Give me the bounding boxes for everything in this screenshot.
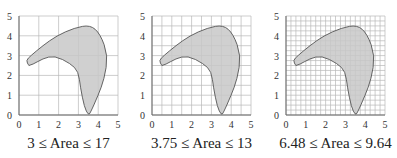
y-tick-label: 3 <box>7 51 12 62</box>
x-tick-label: 3 <box>76 119 81 130</box>
x-tick-label: 0 <box>284 119 289 130</box>
x-tick-label: 4 <box>229 119 234 130</box>
x-tick-label: 2 <box>189 119 194 130</box>
y-tick-label: 5 <box>7 11 12 22</box>
x-tick-label: 1 <box>169 119 174 130</box>
area-bounds-caption: 6.48 ≤ Area ≤ 9.64 <box>279 135 392 151</box>
y-tick-label: 4 <box>140 31 145 42</box>
plot-panel-2: 0123450123453.75 ≤ Area ≤ 13 <box>140 11 254 151</box>
y-tick-label: 1 <box>274 90 279 101</box>
area-bounds-caption: 3.75 ≤ Area ≤ 13 <box>151 135 252 151</box>
x-tick-label: 5 <box>383 119 388 130</box>
x-tick-label: 1 <box>36 119 41 130</box>
plot-panel-1: 0123450123453 ≤ Area ≤ 17 <box>7 11 121 151</box>
area-bounds-caption: 3 ≤ Area ≤ 17 <box>27 135 110 151</box>
x-tick-label: 5 <box>249 119 254 130</box>
y-tick-label: 0 <box>7 110 12 121</box>
x-tick-label: 1 <box>303 119 308 130</box>
x-tick-label: 2 <box>56 119 61 130</box>
y-tick-label: 3 <box>140 51 145 62</box>
x-tick-label: 3 <box>343 119 348 130</box>
y-tick-label: 5 <box>274 11 279 22</box>
y-tick-label: 4 <box>274 31 279 42</box>
x-tick-label: 4 <box>96 119 101 130</box>
x-tick-label: 3 <box>209 119 214 130</box>
y-tick-label: 2 <box>274 70 279 81</box>
x-tick-label: 5 <box>116 119 121 130</box>
area-estimation-figure: 0123450123453 ≤ Area ≤ 170123450123453.7… <box>0 0 397 158</box>
x-tick-label: 4 <box>363 119 368 130</box>
y-tick-label: 0 <box>274 110 279 121</box>
y-tick-label: 2 <box>7 70 12 81</box>
y-tick-label: 4 <box>7 31 12 42</box>
y-tick-label: 1 <box>7 90 12 101</box>
y-tick-label: 2 <box>140 70 145 81</box>
y-tick-label: 5 <box>140 11 145 22</box>
y-tick-label: 1 <box>140 90 145 101</box>
x-tick-label: 0 <box>17 119 22 130</box>
plot-panel-3: 0123450123456.48 ≤ Area ≤ 9.64 <box>274 11 392 151</box>
y-tick-label: 0 <box>140 110 145 121</box>
x-tick-label: 0 <box>150 119 155 130</box>
x-tick-label: 2 <box>323 119 328 130</box>
y-tick-label: 3 <box>274 51 279 62</box>
